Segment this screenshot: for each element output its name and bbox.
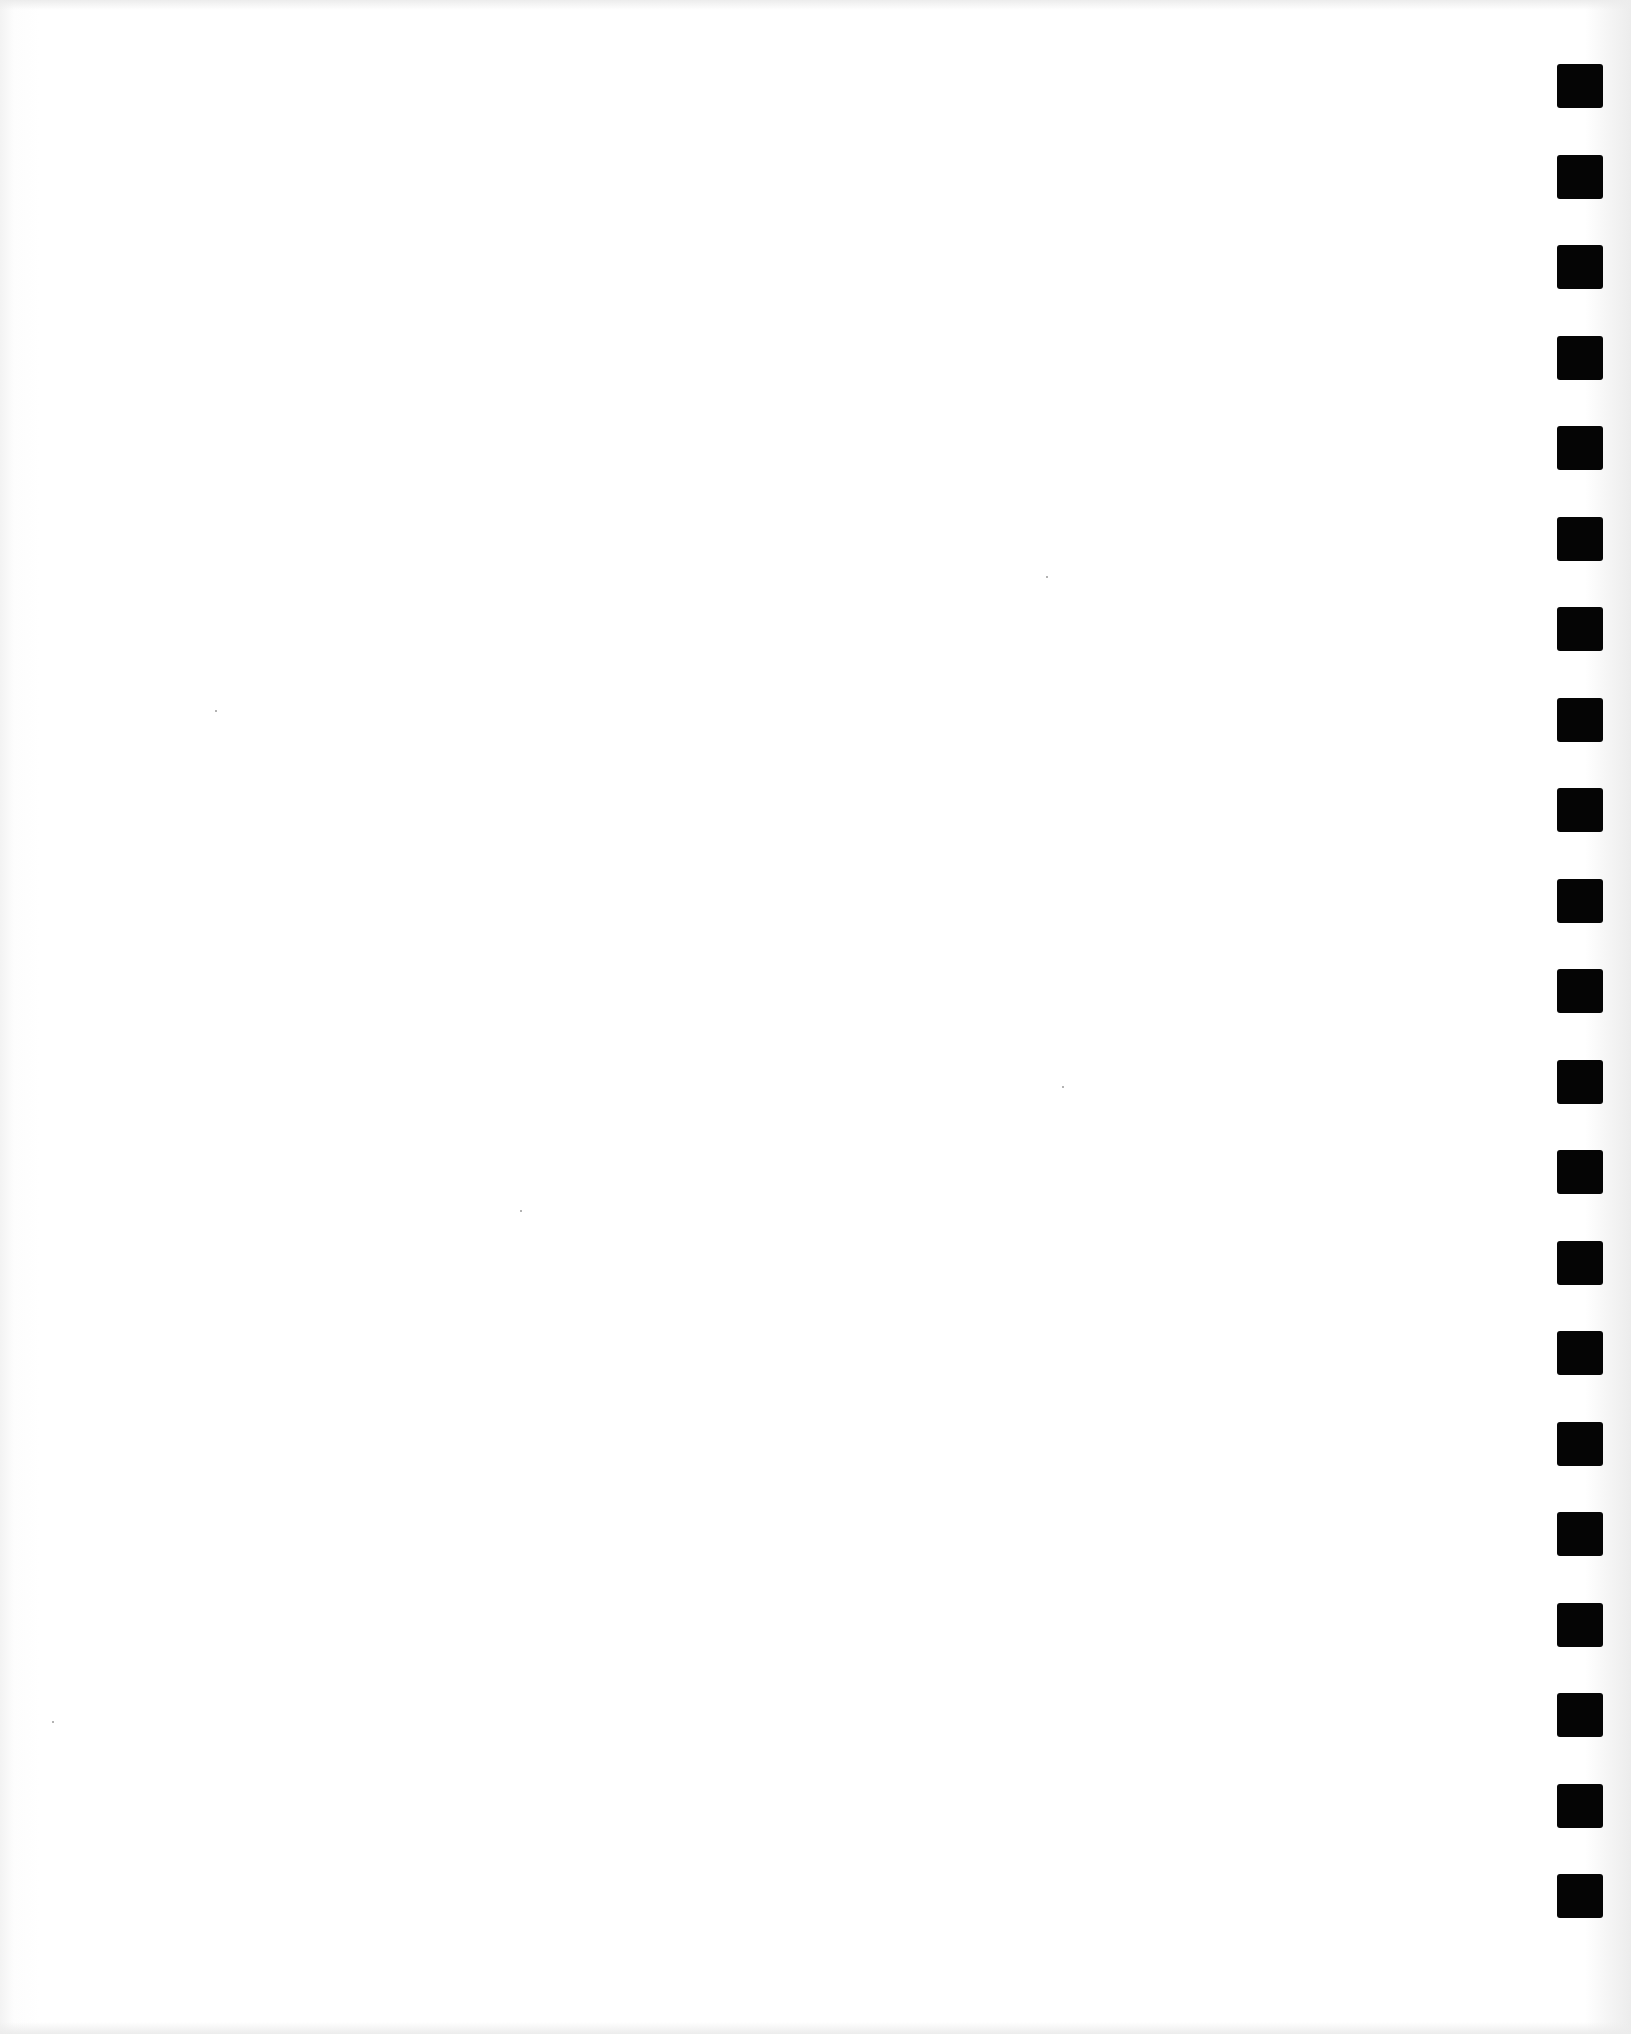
binding-hole [1557,879,1603,923]
scan-top-shadow [0,0,1631,10]
binding-hole [1557,336,1603,380]
scan-speck [520,1210,522,1212]
binding-hole [1557,1603,1603,1647]
binding-hole [1557,1512,1603,1556]
binding-hole [1557,1422,1603,1466]
binding-hole [1557,517,1603,561]
binding-hole [1557,64,1603,108]
scan-speck [1046,576,1048,578]
binding-hole [1557,969,1603,1013]
scan-bottom-shadow [0,2022,1631,2034]
binding-hole [1557,607,1603,651]
binding-hole [1557,1060,1603,1104]
binding-hole [1557,1241,1603,1285]
binding-hole [1557,1874,1603,1918]
binding-hole [1557,245,1603,289]
binding-hole [1557,698,1603,742]
binding-hole [1557,1784,1603,1828]
binding-hole [1557,788,1603,832]
scan-speck [215,710,217,712]
binding-hole [1557,1693,1603,1737]
binding-hole [1557,155,1603,199]
scan-speck [1062,1086,1064,1088]
binding-hole [1557,1150,1603,1194]
binding-hole [1557,426,1603,470]
scan-speck [52,1721,54,1723]
blank-scanned-page [0,0,1631,2034]
binding-hole-strip [1557,0,1605,2034]
binding-hole [1557,1331,1603,1375]
